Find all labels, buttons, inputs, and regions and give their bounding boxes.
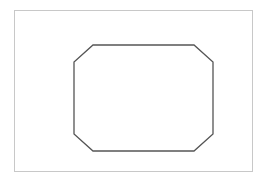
figure-svg [0, 0, 267, 181]
drawing-canvas [0, 0, 267, 181]
outer-frame-rectangle [15, 11, 253, 172]
